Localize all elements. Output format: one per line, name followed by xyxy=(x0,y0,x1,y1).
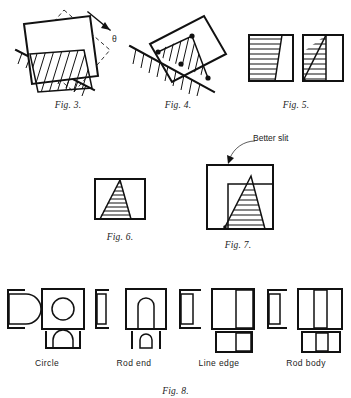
line-edge-square xyxy=(212,289,254,329)
figure-6-drawing xyxy=(92,176,148,222)
figure-4-caption: Fig. 4. xyxy=(118,100,238,110)
figure-7 xyxy=(204,162,280,234)
fig6-hatch xyxy=(95,183,145,215)
group-rod-body-drawing xyxy=(266,286,348,352)
figure-5 xyxy=(244,30,348,88)
fig5-left-slant xyxy=(275,35,282,81)
group-circle xyxy=(6,286,88,352)
group-rod-body xyxy=(266,286,348,352)
figure-7-caption: Fig. 7. xyxy=(198,240,278,250)
fig4-edge-line xyxy=(130,46,214,92)
fig4-point-top xyxy=(189,33,194,38)
rod-end-left-shape xyxy=(97,294,106,324)
rod-body-left-shape xyxy=(269,294,280,324)
figure-3-caption: Fig. 3. xyxy=(2,100,134,110)
group-line-edge-drawing xyxy=(178,286,260,352)
circle-square xyxy=(42,289,84,329)
rod-body-bottom-square xyxy=(302,332,340,352)
line-edge-left-bracket xyxy=(180,290,200,328)
circle-bottom-bracket xyxy=(46,332,80,348)
better-slit-annotation: Better slit xyxy=(253,133,288,143)
line-edge-left-shape xyxy=(181,294,193,324)
circle-left-shape xyxy=(9,294,41,324)
rod-body-left-bracket xyxy=(268,290,286,328)
fig5-corner-dot xyxy=(302,78,306,82)
rod-body-square xyxy=(298,289,342,329)
figure-4-drawing xyxy=(128,8,240,96)
fig5-left-hatch xyxy=(249,39,293,79)
group-rod-end-drawing xyxy=(94,286,174,352)
figure-7-drawing xyxy=(204,162,280,234)
fig4-point-left xyxy=(155,49,160,54)
line-edge-bottom-square xyxy=(216,332,252,352)
rod-end-square xyxy=(126,289,166,329)
circle-left-bracket xyxy=(8,290,24,328)
figure-3: θ xyxy=(2,4,134,96)
figure-3-drawing xyxy=(2,4,134,96)
rod-end-bottom-shape xyxy=(140,334,152,348)
figure-5-drawing xyxy=(244,30,348,88)
group-line-edge-label: Line edge xyxy=(174,358,264,368)
group-rod-end-label: Rod end xyxy=(90,358,178,368)
fig5-right-hatch xyxy=(303,39,343,79)
group-circle-label: Circle xyxy=(4,358,90,368)
fig4-point-mid xyxy=(178,61,183,66)
figure-6-caption: Fig. 6. xyxy=(86,232,154,242)
figure-4 xyxy=(128,8,240,96)
group-line-edge xyxy=(178,286,260,352)
figure-6 xyxy=(92,176,148,222)
group-rod-end xyxy=(94,286,174,352)
circle-bottom-shape xyxy=(53,330,73,348)
group-circle-drawing xyxy=(6,286,88,352)
fig4-aperture-rect xyxy=(150,16,226,82)
fig4-point-right xyxy=(205,75,210,80)
fig3-theta-label: θ xyxy=(112,34,117,44)
figure-plate: θ Fig. 3. xyxy=(0,0,351,398)
figure-5-caption: Fig. 5. xyxy=(244,100,348,110)
group-rod-body-label: Rod body xyxy=(262,358,350,368)
fig7-corner-dot xyxy=(223,225,227,229)
figure-8-caption: Fig. 8. xyxy=(0,386,351,396)
